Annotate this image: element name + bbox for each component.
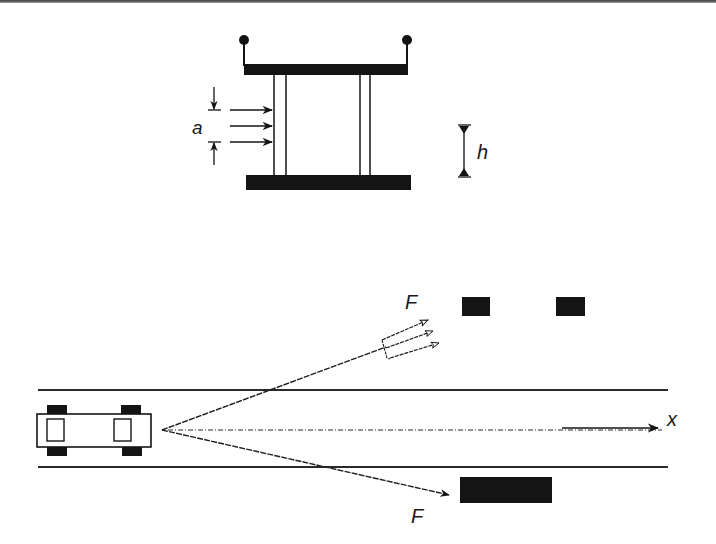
force-vector-upper: F	[162, 291, 439, 430]
road-layout: x F F	[37, 291, 678, 527]
dimension-h: h	[458, 125, 488, 177]
label-x: x	[666, 408, 678, 430]
left-column	[274, 75, 286, 175]
x-axis-arrow: x	[562, 408, 678, 430]
label-force-lower: F	[411, 505, 425, 527]
lateral-load-arrows	[230, 110, 272, 142]
dimension-a: a	[192, 87, 221, 165]
vehicle	[37, 405, 151, 456]
obstacle-large	[460, 477, 552, 503]
label-h: h	[477, 141, 488, 163]
label-force-upper: F	[405, 291, 419, 313]
right-support-pin	[402, 35, 412, 66]
vehicle-window-left	[47, 419, 64, 441]
top-beam	[244, 64, 408, 75]
force-vector-lower: F	[162, 430, 449, 527]
bottom-beam	[246, 175, 411, 190]
obstacle-small-2	[556, 297, 585, 316]
vehicle-window-right	[114, 419, 131, 441]
right-column	[360, 75, 370, 175]
obstacle-small-1	[462, 297, 490, 316]
diagram-canvas: a h x	[0, 0, 716, 544]
frame-structure: a h	[192, 35, 488, 190]
left-support-pin	[239, 35, 249, 66]
label-a: a	[192, 117, 203, 138]
